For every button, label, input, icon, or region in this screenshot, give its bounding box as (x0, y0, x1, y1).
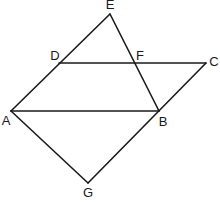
point-label-g: G (83, 185, 93, 200)
point-label-e: E (106, 0, 115, 12)
point-label-d: D (50, 48, 59, 63)
segment-ag (11, 111, 88, 183)
segment-cg (88, 63, 206, 183)
point-label-c: C (209, 54, 218, 69)
point-label-a: A (2, 113, 11, 128)
point-label-f: F (136, 48, 144, 63)
geometry-diagram: E D F C A B G (0, 0, 220, 204)
point-label-b: B (159, 114, 168, 129)
